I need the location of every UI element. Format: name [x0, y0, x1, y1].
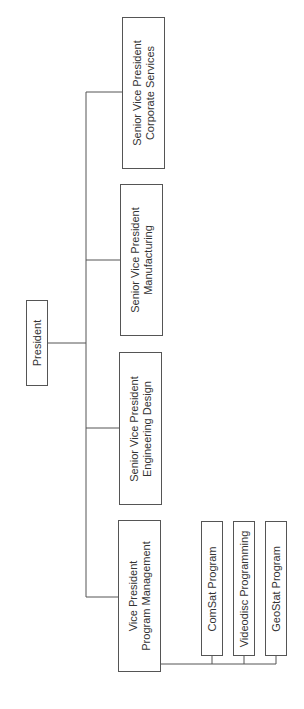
- president-title: President: [31, 320, 44, 366]
- org-chart: President Senior Vice President Corporat…: [0, 0, 304, 709]
- svp-engineering-design-label: Senior Vice President Engineering Design: [128, 376, 154, 482]
- exec-title: Senior Vice President: [128, 376, 141, 482]
- comsat-program-label: ComSat Program: [206, 546, 219, 631]
- program-title: Videodisc Programming: [238, 530, 251, 647]
- exec-department: Program Management: [140, 541, 153, 650]
- comsat-program-box: ComSat Program: [201, 521, 223, 656]
- geostat-program-label: GeoStat Program: [270, 546, 283, 632]
- program-title: GeoStat Program: [270, 546, 283, 632]
- exec-department: Manufacturing: [142, 207, 155, 313]
- videodisc-programming-box: Videodisc Programming: [233, 521, 255, 656]
- exec-title: Vice President: [127, 541, 140, 650]
- videodisc-programming-label: Videodisc Programming: [238, 530, 251, 647]
- svp-manufacturing-box: Senior Vice President Manufacturing: [120, 184, 163, 336]
- geostat-program-box: GeoStat Program: [265, 521, 287, 656]
- president-label: President: [31, 320, 44, 366]
- svp-manufacturing-label: Senior Vice President Manufacturing: [129, 207, 155, 313]
- svp-corporate-services-label: Senior Vice President Corporate Services: [131, 40, 157, 146]
- exec-department: Corporate Services: [144, 40, 157, 146]
- exec-title: Senior Vice President: [129, 207, 142, 313]
- president-box: President: [26, 300, 48, 386]
- exec-title: Senior Vice President: [131, 40, 144, 146]
- vp-program-management-label: Vice President Program Management: [127, 541, 153, 650]
- svp-engineering-design-box: Senior Vice President Engineering Design: [119, 352, 162, 505]
- program-title: ComSat Program: [206, 546, 219, 631]
- svp-corporate-services-box: Senior Vice President Corporate Services: [122, 17, 165, 169]
- vp-program-management-box: Vice President Program Management: [118, 520, 161, 672]
- exec-department: Engineering Design: [141, 376, 154, 482]
